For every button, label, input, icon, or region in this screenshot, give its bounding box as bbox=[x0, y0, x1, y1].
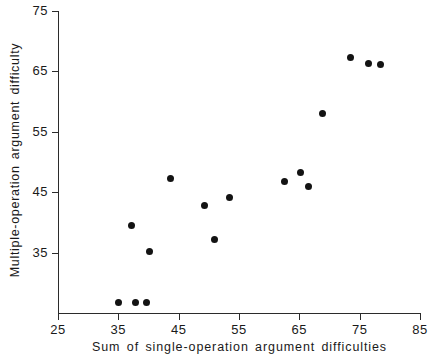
y-axis-tick-label: 35 bbox=[8, 245, 48, 260]
x-axis-tick-label: 55 bbox=[219, 322, 259, 337]
x-axis-tick-label: 35 bbox=[98, 322, 138, 337]
x-axis-tick-label: 25 bbox=[38, 322, 78, 337]
y-axis-tick-label: 65 bbox=[8, 63, 48, 78]
data-point bbox=[128, 222, 135, 229]
y-axis-tick-label: 45 bbox=[8, 184, 48, 199]
x-axis-tick-label: 75 bbox=[340, 322, 380, 337]
plot-data-area bbox=[58, 11, 420, 313]
x-axis-tick-mark bbox=[118, 314, 119, 320]
data-point bbox=[281, 178, 288, 185]
y-axis-tick-label: 75 bbox=[8, 3, 48, 18]
data-point bbox=[377, 61, 384, 68]
x-axis-tick-label: 65 bbox=[279, 322, 319, 337]
x-axis-tick-label: 45 bbox=[159, 322, 199, 337]
y-axis-title: Multiple-operation argument difficulty bbox=[8, 9, 26, 311]
data-point bbox=[305, 183, 312, 190]
data-point bbox=[365, 60, 372, 67]
x-axis-tick-label: 85 bbox=[400, 322, 440, 337]
x-axis-tick-mark bbox=[299, 314, 300, 320]
data-point bbox=[132, 299, 139, 306]
x-axis-tick-mark bbox=[239, 314, 240, 320]
data-point bbox=[201, 202, 208, 209]
x-axis-tick-mark bbox=[360, 314, 361, 320]
y-axis-tick-label: 55 bbox=[8, 124, 48, 139]
data-point bbox=[143, 299, 150, 306]
data-point bbox=[167, 175, 174, 182]
x-axis-tick-mark bbox=[420, 314, 421, 320]
data-point bbox=[297, 169, 304, 176]
data-point bbox=[226, 194, 233, 201]
data-point bbox=[319, 110, 326, 117]
scatter-plot-figure: Sum of single-operation argument difficu… bbox=[0, 0, 444, 362]
x-axis-tick-mark bbox=[58, 314, 59, 320]
data-point bbox=[347, 54, 354, 61]
data-point bbox=[115, 299, 122, 306]
x-axis-title: Sum of single-operation argument difficu… bbox=[58, 340, 421, 354]
x-axis-tick-mark bbox=[179, 314, 180, 320]
data-point bbox=[146, 248, 153, 255]
data-point bbox=[211, 236, 218, 243]
